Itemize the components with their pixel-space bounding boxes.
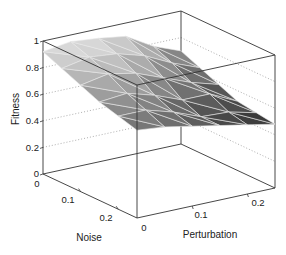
y-tick-label: 0: [141, 222, 146, 233]
x-tick-label: 0: [34, 178, 39, 189]
z-tick-label: 0.6: [26, 88, 39, 99]
y-tick-label: 0.1: [194, 209, 207, 220]
fitness-surface: [43, 36, 275, 130]
y-tick-label: 0.2: [251, 197, 264, 208]
z-tick-label: 0.8: [26, 62, 39, 73]
axis-edge: [43, 144, 181, 174]
z-axis-label: Fitness: [10, 93, 21, 125]
y-tick: [247, 194, 248, 197]
x-tick-label: 0.2: [99, 212, 112, 223]
surface-chart: 0 0.2 0.4 0.6 0.8 1 0 0.1 0.2 0 0.1 0.2 …: [0, 0, 286, 255]
z-tick-label: 0.2: [26, 142, 39, 153]
z-tick: [40, 174, 43, 175]
z-tick-label: 1: [34, 35, 39, 46]
x-tick-label: 0.1: [61, 194, 74, 205]
x-axis-label: Noise: [76, 232, 102, 243]
z-tick-label: 0.4: [26, 115, 39, 126]
axis-edge: [43, 174, 137, 218]
axis-edge: [43, 11, 181, 41]
axis-edge: [181, 11, 275, 55]
y-tick: [192, 206, 193, 209]
axis-edge: [181, 144, 275, 188]
y-axis-label: Perturbation: [183, 229, 237, 240]
